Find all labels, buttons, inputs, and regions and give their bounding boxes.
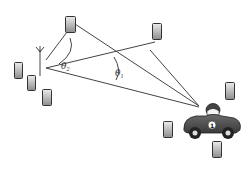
phone-icon-left-2 (28, 76, 36, 91)
phone-icon-right (226, 83, 235, 100)
phone-icon-top-left (66, 17, 76, 33)
antenna-icon (36, 46, 44, 76)
phone-icon-left-1 (15, 63, 23, 79)
phone-icon-lower-mid (164, 122, 173, 138)
phone-icons (15, 17, 235, 158)
line-phone-top-left-to-car (75, 24, 199, 106)
race-car-icon: 1 (184, 104, 241, 140)
car-number: 1 (210, 122, 214, 129)
phone-icon-top-right (153, 24, 162, 40)
line-antenna-to-phone-top-left (46, 32, 67, 60)
phone-icon-left-3 (43, 90, 52, 106)
phone-icon-bottom (213, 142, 222, 158)
theta-1-label: θ1 (115, 68, 124, 79)
diagram-canvas: θ2 θ1 1 (0, 0, 252, 170)
